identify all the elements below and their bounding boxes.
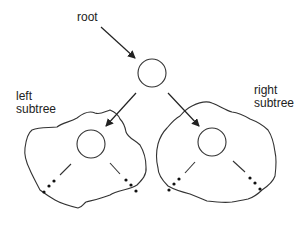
right-child-right-ellipsis [248,176,261,190]
left-child-left-ellipsis [42,179,55,193]
left-subtree-outline [25,110,146,208]
right-child-node [198,128,226,156]
right-child-right-stub [233,161,245,172]
left-child-right-stub [110,163,120,174]
left-subtree-label-line2: subtree [16,103,56,116]
root-pointer-arrow [101,27,135,58]
tree-diagram [0,0,306,247]
left-child-node [77,130,105,158]
root-label: root [77,11,98,24]
right-subtree-label-line2: subtree [254,97,294,110]
left-subtree-label: left subtree [16,90,56,116]
right-child-left-stub [185,162,195,173]
left-edge-arrow [106,93,136,126]
root-node [138,59,166,87]
left-child-left-stub [60,164,71,175]
right-subtree-label: right subtree [254,84,294,110]
